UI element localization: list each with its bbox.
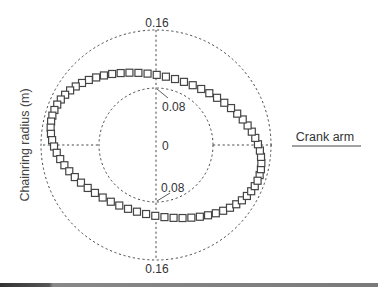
data-point-marker [116,202,123,209]
data-point-marker [180,78,187,85]
data-point-marker [93,74,100,81]
data-point-marker [85,76,92,83]
tick-label-inner-bottom: 0.08 [161,181,185,195]
data-point-marker [228,105,235,112]
tick-label-center: 0 [162,139,169,153]
polar-chart: 0.16 0.08 0 0.08 0.16 Chainring radius (… [0,0,378,287]
data-point-marker [109,70,116,77]
data-point-marker [77,179,84,186]
legend-label-crank-arm: Crank arm [296,130,354,144]
data-point-marker [144,70,151,77]
leader-line-top [157,89,168,98]
data-point-marker [133,208,140,215]
y-axis-title: Chainring radius (m) [18,88,32,201]
tick-label-outer-bottom: 0.16 [145,262,169,276]
data-point-marker [152,212,159,219]
data-point-marker [91,189,98,196]
grid [41,30,272,260]
data-point-marker [107,198,114,205]
data-point-marker [206,90,213,97]
data-point-marker [205,212,212,219]
data-point-marker [221,99,228,106]
tick-label-inner-top: 0.08 [162,100,186,114]
data-point-marker [153,71,160,78]
data-point-marker [100,72,107,79]
data-point-marker [189,82,196,89]
data-point-marker [179,215,186,222]
data-point-marker [198,85,205,92]
data-point-marker [143,211,150,218]
tick-label-outer-top: 0.16 [145,16,169,30]
data-point-marker [84,184,91,191]
data-point-marker [220,207,227,214]
data-point-marker [135,69,142,76]
data-point-marker [172,76,179,83]
data-point-marker [162,73,169,80]
bottom-border [0,283,378,287]
data-point-marker [170,214,177,221]
data-point-marker [212,210,219,217]
data-point-marker [161,214,168,221]
data-point-marker [254,177,261,184]
data-point-marker [214,94,221,101]
data-point-marker [126,69,133,76]
data-point-marker [117,70,124,77]
legend: Crank arm [292,130,361,146]
data-point-marker [188,214,195,221]
data-point-marker [99,194,106,201]
data-point-marker [196,213,203,220]
data-point-marker [125,205,132,212]
